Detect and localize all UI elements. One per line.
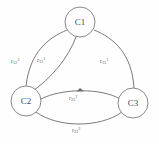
edge-label-sup: 2 — [17, 57, 19, 62]
edges-group — [26, 30, 134, 124]
relation-graph-figure: C1 C2 C3 r122 r121 r131 r231 r232 — [0, 0, 159, 144]
edge-label-sup: 1 — [43, 56, 45, 61]
edge-c1-c2-inner — [30, 37, 76, 93]
edge-label-c2-c3-upper: r231 — [69, 95, 77, 102]
edge-label-c2-c3-lower: r232 — [72, 127, 80, 134]
edge-label-sup: 1 — [106, 57, 108, 62]
arrowhead-c2-c3-upper — [77, 88, 85, 92]
edge-c1-c2-outer — [26, 30, 67, 86]
node-label-c2: C2 — [21, 96, 32, 106]
node-label-c1: C1 — [75, 17, 86, 27]
nodes-group: C1 C2 C3 — [11, 7, 148, 118]
edge-c2-c3-lower — [36, 112, 122, 124]
edge-label-sup: 2 — [78, 126, 80, 131]
edge-c2-c3-upper — [41, 91, 120, 99]
graph-canvas: C1 C2 C3 — [0, 0, 159, 144]
edge-label-sup: 1 — [75, 94, 77, 99]
node-label-c3: C3 — [128, 98, 139, 108]
edge-label-c1-c2-inner: r121 — [37, 57, 45, 64]
edge-label-c1-c2-outer: r122 — [11, 58, 19, 65]
edge-label-c1-c3: r131 — [100, 58, 108, 65]
